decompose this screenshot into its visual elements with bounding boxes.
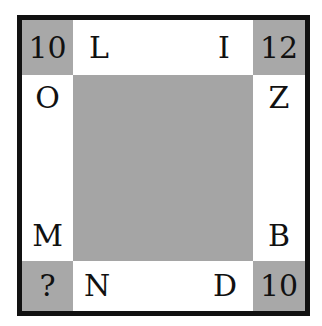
corner-bottom-right: 10 bbox=[253, 261, 305, 311]
top-letter-left: L bbox=[89, 20, 109, 75]
bottom-letter-left: N bbox=[84, 261, 110, 311]
bottom-letter-right: D bbox=[213, 261, 237, 311]
puzzle-board: 10 12 ? 10 L I N D O M Z B bbox=[17, 15, 310, 316]
corner-bottom-left: ? bbox=[22, 261, 73, 311]
corner-top-right: 12 bbox=[253, 20, 305, 75]
right-letter-top: Z bbox=[253, 78, 305, 118]
top-letter-right: I bbox=[218, 20, 230, 75]
left-letter-bottom: M bbox=[22, 216, 73, 256]
right-letter-bottom: B bbox=[253, 216, 305, 256]
corner-top-left: 10 bbox=[22, 20, 73, 75]
left-letter-top: O bbox=[22, 78, 73, 118]
center-square bbox=[73, 75, 253, 261]
